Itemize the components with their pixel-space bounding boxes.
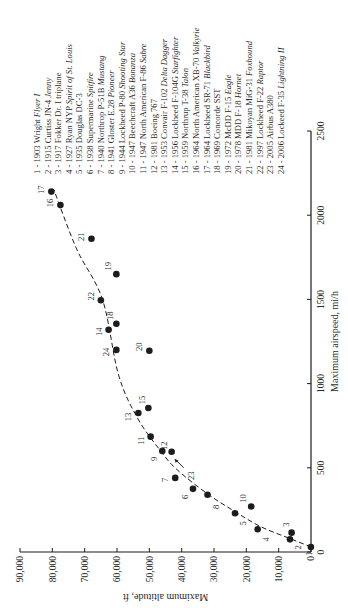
legend-aircraft: 1944 Lockheed P-80 bbox=[117, 89, 127, 163]
data-point bbox=[145, 405, 152, 412]
legend-number: 11 - bbox=[138, 159, 148, 174]
y-tick-label: 60,000 bbox=[112, 556, 122, 582]
legend-number: 4 - bbox=[64, 163, 74, 174]
legend-item: 24 - 2006 Lockeed F-35 Lightning II bbox=[276, 46, 286, 174]
point-label: 13 bbox=[123, 413, 133, 422]
legend-aircraft: 1964 Lockheed SR-71 bbox=[202, 79, 212, 158]
legend-aircraft: 1964 North American XB-70 bbox=[191, 56, 201, 159]
legend-aircraft-name: Raptor bbox=[255, 60, 265, 86]
y-tick-label: 80,000 bbox=[48, 556, 58, 582]
legend-number: 6 - bbox=[85, 163, 95, 174]
legend: 1 - 1903 Wright Flyer I2 - 1915 Curtiss … bbox=[32, 27, 286, 174]
data-point bbox=[232, 510, 239, 517]
point-label: 18 bbox=[105, 312, 115, 321]
legend-number: 3 - bbox=[53, 163, 63, 174]
legend-number: 10 - bbox=[127, 158, 137, 174]
axes: 05001000150020002500010,00020,00030,0004… bbox=[15, 121, 326, 582]
legend-aircraft-name: Pioneer bbox=[106, 70, 116, 99]
legend-number: 8 - bbox=[106, 163, 116, 174]
legend-aircraft: 2006 Lockeed F-35 bbox=[276, 89, 286, 158]
x-tick-label: 2000 bbox=[316, 205, 326, 224]
legend-number: 12 - bbox=[149, 158, 159, 174]
legend-item: 8 - 1941 Gloster E.28 Pioneer bbox=[106, 70, 116, 174]
legend-aircraft: 1938 Supermarine bbox=[85, 97, 95, 162]
legend-aircraft-name: Valkyrie bbox=[191, 27, 201, 55]
legend-aircraft-name: Lightning II bbox=[276, 46, 286, 89]
legend-item: 20 - 1978 MDD F-18 Hornet bbox=[233, 73, 243, 174]
data-point bbox=[190, 486, 197, 493]
data-point bbox=[105, 326, 112, 333]
point-label: 4 bbox=[261, 536, 271, 541]
legend-aircraft: 2005 Airbus A380 bbox=[265, 95, 275, 158]
legend-item: 7 - 1940 Northrop P-51B Mustang bbox=[96, 55, 106, 174]
legend-item: 17 - 1964 Lockheed SR-71 Blackbird bbox=[202, 44, 212, 174]
data-point bbox=[135, 410, 142, 417]
legend-number: 5 - bbox=[74, 163, 84, 174]
legend-aircraft: 1903 Wright bbox=[32, 117, 42, 162]
legend-item: 19 - 1972 McDD F-15 Eagle bbox=[223, 74, 233, 174]
data-point bbox=[147, 433, 154, 440]
legend-aircraft-name: Starfighter bbox=[170, 36, 180, 74]
x-axis-title: Maximum airspeed, mi/h bbox=[329, 291, 340, 392]
legend-aircraft-name: Eagle bbox=[223, 74, 233, 95]
x-tick-label: 1000 bbox=[316, 374, 326, 393]
point-label: 12 bbox=[159, 442, 169, 451]
rotated-scatter-chart: 05001000150020002500010,00020,00030,0004… bbox=[0, 0, 348, 608]
legend-item: 14 - 1956 Lockheed F-104G Starfighter bbox=[170, 36, 180, 174]
legend-number: 24 - bbox=[276, 158, 286, 174]
point-label: 2 bbox=[293, 545, 303, 549]
legend-aircraft-name: Blackbird bbox=[202, 44, 212, 78]
legend-number: 17 - bbox=[202, 158, 212, 174]
legend-aircraft-name: Flyer I bbox=[32, 92, 42, 118]
data-point bbox=[146, 347, 153, 354]
point-label: 9 bbox=[149, 457, 159, 461]
legend-aircraft: 1972 McDD F-15 bbox=[223, 94, 233, 158]
x-tick-label: 0 bbox=[316, 549, 326, 554]
legend-aircraft: 1981 Mikoyan MiG-31 bbox=[244, 76, 254, 158]
y-tick-label: 50,000 bbox=[145, 556, 155, 582]
legend-item: 11 - 1947 North American F-86 Sabre bbox=[138, 43, 148, 174]
legend-aircraft: 1927 Ryan NYP bbox=[64, 104, 74, 162]
x-tick-label: 1500 bbox=[316, 290, 326, 309]
point-label: 7 bbox=[160, 478, 170, 482]
legend-aircraft: 1969 Concorde SST bbox=[212, 88, 222, 158]
data-point bbox=[48, 188, 55, 195]
data-point bbox=[113, 321, 120, 328]
legend-aircraft-name: Talon bbox=[180, 68, 190, 87]
legend-number: 16 - bbox=[191, 158, 201, 174]
point-label: 24 bbox=[101, 347, 111, 356]
point-label: 17 bbox=[36, 185, 46, 194]
legend-aircraft-name: Sabre bbox=[138, 43, 148, 63]
legend-number: 23 - bbox=[265, 158, 275, 174]
point-label: 5 bbox=[238, 521, 248, 525]
y-tick-label: 90,000 bbox=[15, 556, 25, 582]
legend-number: 9 - bbox=[117, 163, 127, 174]
data-point bbox=[287, 536, 294, 543]
data-point bbox=[248, 503, 255, 510]
trend-line bbox=[54, 190, 311, 547]
legend-number: 14 - bbox=[170, 158, 180, 174]
legend-item: 15 - 1959 Northrup T-38 Talon bbox=[180, 68, 190, 174]
y-axis-title: Maximum altitude, ft bbox=[123, 592, 208, 603]
y-tick-label: 20,000 bbox=[242, 556, 252, 582]
legend-aircraft: 1947 Beechcraft A36 bbox=[127, 83, 137, 158]
point-label: 23 bbox=[186, 471, 196, 480]
legend-aircraft: 1935 Douglas DC-3 bbox=[74, 93, 84, 162]
point-label: 11 bbox=[136, 437, 146, 445]
y-tick-label: 30,000 bbox=[209, 556, 219, 582]
chart-figure: 05001000150020002500010,00020,00030,0004… bbox=[0, 0, 348, 608]
y-tick-label: 10,000 bbox=[274, 556, 284, 582]
point-label: 16 bbox=[45, 199, 55, 208]
data-point bbox=[308, 544, 315, 551]
data-point bbox=[88, 235, 95, 242]
legend-aircraft: 1915 Curtiss JN-4 bbox=[43, 98, 53, 163]
point-label: 20 bbox=[134, 343, 144, 352]
data-point bbox=[204, 491, 211, 498]
legend-aircraft-name: Delta Dagger bbox=[159, 38, 169, 87]
point-label: 6 bbox=[180, 495, 190, 499]
legend-aircraft: 1953 Convair F-102 bbox=[159, 86, 169, 158]
legend-item: 1 - 1903 Wright Flyer I bbox=[32, 92, 42, 174]
legend-number: 13 - bbox=[159, 158, 169, 174]
data-points: 123456789101112131415161718192021222324 bbox=[36, 185, 314, 556]
legend-item: 9 - 1944 Lockheed P-80 Shooting Star bbox=[117, 41, 127, 174]
